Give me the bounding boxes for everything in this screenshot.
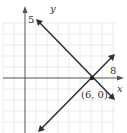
intersection-point (90, 76, 94, 80)
x-tick-label: 8 (110, 65, 116, 76)
x-axis-label: x (117, 83, 123, 94)
x-axis-arrow-icon (117, 76, 124, 81)
y-axis (23, 6, 28, 133)
y-axis-label: y (49, 3, 56, 14)
y-tick-label: 5 (28, 14, 34, 25)
decreasing-line (36, 19, 115, 100)
y-axis-arrow-icon (23, 6, 28, 13)
graph-canvas: y x 5 8 (6, 0) (0, 0, 127, 133)
x-axis (3, 76, 124, 81)
point-label: (6, 0) (81, 89, 108, 100)
